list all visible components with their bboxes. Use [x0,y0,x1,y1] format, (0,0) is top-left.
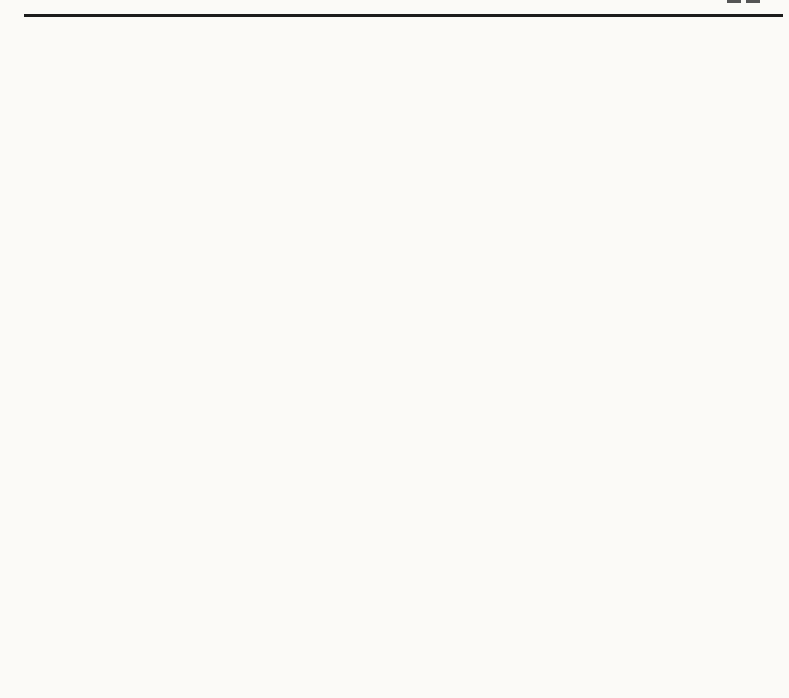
figure-artwork [0,0,789,698]
book-page [0,0,789,698]
